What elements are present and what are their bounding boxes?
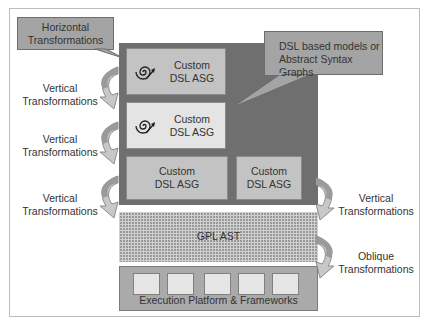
label-line: Vertical [18, 133, 102, 146]
vertical-transformations-label-3: Vertical Transformations [18, 192, 102, 218]
label-line: Transformations [333, 205, 419, 218]
oblique-transformation-arrow-icon [316, 236, 334, 278]
label-line: Vertical [333, 192, 419, 205]
label-line: Transformations [18, 205, 102, 218]
label-line: Transformations [18, 95, 102, 108]
label-line: Vertical [18, 192, 102, 205]
oblique-transformations-label: Oblique Transformations [333, 250, 419, 276]
vertical-transformations-label-right: Vertical Transformations [333, 192, 419, 218]
label-line: Transformations [18, 146, 102, 159]
vertical-transformation-arrow-icon [100, 176, 118, 218]
label-line: Transformations [333, 263, 419, 276]
vertical-transformation-arrow-icon [316, 178, 334, 220]
vertical-transformations-label-1: Vertical Transformations [18, 82, 102, 108]
label-line: Vertical [18, 82, 102, 95]
vertical-transformations-label-2: Vertical Transformations [18, 133, 102, 159]
vertical-transformation-arrow-icon [100, 122, 118, 164]
curved-arrows [0, 0, 426, 326]
vertical-transformation-arrow-icon [100, 67, 118, 109]
label-line: Oblique [333, 250, 419, 263]
